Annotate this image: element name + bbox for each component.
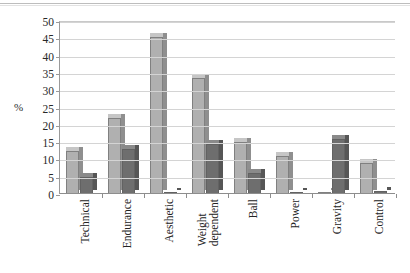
bar-face bbox=[248, 173, 261, 194]
gridline bbox=[60, 160, 395, 161]
x-tick-mark bbox=[270, 194, 271, 198]
y-tick-label: 20 bbox=[43, 121, 55, 131]
gridline bbox=[60, 39, 395, 40]
x-axis-label: Weightdependent bbox=[196, 199, 220, 246]
bar-light bbox=[192, 78, 205, 194]
bar-dark bbox=[248, 173, 261, 194]
x-tick-mark bbox=[144, 194, 145, 198]
y-tick-mark bbox=[56, 160, 60, 161]
plot-area: 05101520253035404550 bbox=[59, 21, 395, 194]
bar-face bbox=[108, 118, 121, 194]
gridline bbox=[60, 178, 395, 179]
gridline bbox=[60, 74, 395, 75]
y-tick-label: 30 bbox=[43, 86, 55, 96]
y-tick-mark bbox=[56, 143, 60, 144]
bar-side-3d bbox=[93, 173, 97, 190]
gridline bbox=[60, 91, 395, 92]
bar-side-3d bbox=[373, 159, 377, 190]
bar-face bbox=[122, 149, 135, 194]
scan-artifact-line-top bbox=[0, 3, 410, 4]
bar-side-3d bbox=[289, 152, 293, 190]
bar-dark bbox=[206, 144, 219, 194]
x-axis-label-line: dependent bbox=[208, 199, 220, 246]
bar-side-3d bbox=[387, 187, 391, 190]
bar-cap-3d bbox=[66, 147, 79, 151]
bar-side-3d bbox=[219, 140, 223, 190]
bar-cap-3d bbox=[332, 135, 345, 139]
bar-side-3d bbox=[135, 145, 139, 190]
x-axis-label: Gravity bbox=[331, 199, 343, 234]
bar-face bbox=[66, 151, 79, 194]
bar-face bbox=[150, 37, 163, 194]
x-tick-mark bbox=[354, 194, 355, 198]
bar-dark bbox=[122, 149, 135, 194]
bar-light bbox=[234, 142, 247, 194]
y-tick-label: 15 bbox=[43, 138, 55, 148]
bar-light bbox=[108, 118, 121, 194]
x-tick-mark bbox=[312, 194, 313, 198]
x-axis-label: Control bbox=[373, 199, 385, 234]
x-tick-mark bbox=[186, 194, 187, 198]
y-tick-label: 45 bbox=[43, 34, 55, 44]
bar-dark bbox=[80, 177, 93, 194]
x-axis-label-line: Weight bbox=[196, 213, 208, 246]
bar-chart: % 05101520253035404550 TechnicalEnduranc… bbox=[0, 0, 410, 273]
bar-face bbox=[80, 177, 93, 194]
y-tick-mark bbox=[56, 74, 60, 75]
y-tick-mark bbox=[56, 57, 60, 58]
y-tick-label: 35 bbox=[43, 69, 55, 79]
y-tick-label: 25 bbox=[43, 104, 55, 114]
bar-cap-3d bbox=[108, 114, 121, 118]
y-tick-mark bbox=[56, 195, 60, 196]
bar-cap-3d bbox=[234, 138, 247, 142]
gridline bbox=[60, 57, 395, 58]
y-tick-mark bbox=[56, 178, 60, 179]
x-axis-label: Ball bbox=[247, 199, 259, 218]
y-axis-title: % bbox=[14, 101, 23, 113]
bar-face bbox=[192, 78, 205, 194]
bar-light bbox=[276, 156, 289, 194]
x-tick-mark bbox=[396, 194, 397, 198]
y-tick-mark bbox=[56, 22, 60, 23]
scan-artifact-line-top-secondary bbox=[0, 5, 410, 6]
x-axis-label: Technical bbox=[79, 199, 91, 244]
bar-cap-3d bbox=[276, 152, 289, 156]
y-tick-mark bbox=[56, 109, 60, 110]
gridline bbox=[60, 126, 395, 127]
bar-light bbox=[66, 151, 79, 194]
bar-side-3d bbox=[303, 188, 307, 191]
y-tick-mark bbox=[56, 39, 60, 40]
bar-cap-3d bbox=[150, 33, 163, 37]
bar-cap-3d bbox=[122, 145, 135, 149]
y-tick-label: 5 bbox=[48, 173, 54, 183]
bar-dark bbox=[332, 139, 345, 194]
gridline bbox=[60, 22, 395, 23]
gridline bbox=[60, 143, 395, 144]
x-axis-label: Aesthetic bbox=[163, 199, 175, 242]
bar-face bbox=[206, 144, 219, 194]
x-tick-mark bbox=[228, 194, 229, 198]
x-axis-label: Power bbox=[289, 199, 301, 228]
y-tick-label: 10 bbox=[43, 155, 55, 165]
bar-side-3d bbox=[261, 169, 265, 190]
gridline bbox=[60, 109, 395, 110]
bar-cap-3d bbox=[80, 173, 93, 177]
y-tick-label: 0 bbox=[48, 190, 54, 200]
bar-light bbox=[150, 37, 163, 194]
bar-face bbox=[276, 156, 289, 194]
y-tick-mark bbox=[56, 91, 60, 92]
y-tick-label: 50 bbox=[43, 17, 55, 27]
bar-face bbox=[332, 139, 345, 194]
y-tick-mark bbox=[56, 126, 60, 127]
bar-side-3d bbox=[177, 188, 181, 191]
x-axis-label: Endurance bbox=[121, 199, 133, 248]
y-tick-label: 40 bbox=[43, 52, 55, 62]
bar-face bbox=[234, 142, 247, 194]
x-axis-labels: TechnicalEnduranceAestheticWeightdepende… bbox=[59, 199, 395, 273]
x-tick-mark bbox=[102, 194, 103, 198]
bar-cap-3d bbox=[248, 169, 261, 173]
